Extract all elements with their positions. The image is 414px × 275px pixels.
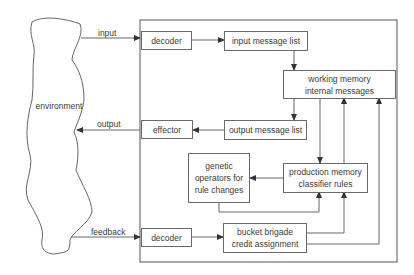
input-message-list-box: input message list (224, 31, 308, 51)
bucket-brigade-box: bucket brigade credit assignment (223, 223, 307, 253)
decoder-feedback-box: decoder (141, 228, 192, 247)
output-edge-label: output (97, 119, 121, 130)
working-memory-box: working memory internal messages (283, 70, 396, 99)
effector-box: effector (141, 120, 193, 139)
production-memory-box: production memory classifier rules (283, 163, 368, 193)
input-edge-label: input (98, 28, 116, 39)
environment-label: environment (35, 101, 83, 112)
output-message-list-box: output message list (224, 120, 307, 140)
feedback-edge-label: feedback (91, 227, 126, 238)
genetic-operators-box: genetic operators for rule changes (188, 153, 250, 203)
diagram-lines (0, 0, 414, 275)
decoder-input-box: decoder (141, 31, 192, 50)
environment-blob (26, 18, 92, 254)
